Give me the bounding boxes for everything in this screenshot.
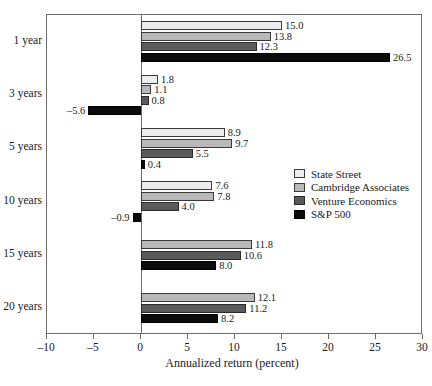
bar-cambridge-associates [141,32,271,41]
x-axis-tick [328,334,329,339]
x-axis-tick-label: 30 [416,341,428,353]
bar-value-label: 4.0 [182,202,195,211]
legend-swatch-icon [294,196,305,205]
bar-state-street [141,128,225,137]
bar-s-p-500 [141,160,145,169]
bar-value-label: –0.9 [111,213,129,222]
legend-label: Venture Economics [311,195,397,207]
bar-value-label: 15.0 [285,21,303,30]
bar-state-street [141,21,282,30]
x-axis-tick [422,334,423,339]
bar-venture-economics [141,251,241,260]
bar-chart: 1 year3 years5 years10 years15 years20 y… [0,0,432,386]
bar-state-street [141,181,212,190]
bar-value-label: –5.6 [67,106,85,115]
bar-s-p-500 [88,106,141,115]
y-axis-label-15-years: 15 years [0,247,42,259]
bar-group-15-years: 11.810.68.0 [47,240,421,270]
x-axis-tick [234,334,235,339]
x-axis-tick-label: 25 [369,341,381,353]
bar-value-label: 7.8 [217,192,230,201]
bar-venture-economics [141,42,257,51]
legend-item-state-street[interactable]: State Street [294,167,409,181]
bar-value-label: 1.1 [154,85,167,94]
bar-value-label: 0.8 [152,96,165,105]
y-axis-label-20-years: 20 years [0,300,42,312]
bar-s-p-500 [141,314,218,323]
legend-label: State Street [311,168,361,180]
bar-value-label: 12.3 [260,42,278,51]
x-axis-tick-label: 5 [184,341,190,353]
bar-cambridge-associates [141,240,252,249]
bar-value-label: 10.6 [244,251,262,260]
bar-group-20-years: 12.111.28.2 [47,293,421,323]
bar-value-label: 7.6 [215,181,228,190]
y-axis-label-1-year: 1 year [0,34,42,46]
bar-cambridge-associates [141,192,214,201]
y-axis-label-10-years: 10 years [0,194,42,206]
legend-item-venture-economics[interactable]: Venture Economics [294,194,409,208]
y-axis-label-5-years: 5 years [0,140,42,152]
bar-value-label: 11.2 [249,304,267,313]
bar-group-5-years: 8.99.75.50.4 [47,128,421,169]
legend-item-cambridge-associates[interactable]: Cambridge Associates [294,181,409,195]
x-axis-tick [281,334,282,339]
bar-value-label: 5.5 [196,149,209,158]
bar-value-label: 9.7 [235,139,248,148]
x-axis-tick [140,334,141,339]
x-axis-tick-label: 20 [322,341,334,353]
x-axis-tick [93,334,94,339]
bar-value-label: 26.5 [393,53,411,62]
bar-venture-economics [141,149,193,158]
x-axis: –10–5051015202530 [46,334,422,335]
legend-label: S&P 500 [311,208,351,220]
bar-s-p-500 [141,53,390,62]
legend-swatch-icon [294,210,305,219]
bar-venture-economics [141,96,149,105]
x-axis-tick [46,334,47,339]
legend-swatch-icon [294,169,305,178]
x-axis-title: Annualized return (percent) [0,356,432,371]
bar-cambridge-associates [141,85,151,94]
bar-s-p-500 [133,213,141,222]
x-axis-tick-label: –10 [37,341,54,353]
x-axis-tick-label: 10 [228,341,240,353]
bar-value-label: 1.8 [161,75,174,84]
x-axis-tick-label: 0 [137,341,143,353]
legend-label: Cambridge Associates [311,181,409,193]
bar-venture-economics [141,304,246,313]
bar-venture-economics [141,202,179,211]
bar-value-label: 11.8 [255,240,273,249]
y-axis-category-labels: 1 year3 years5 years10 years15 years20 y… [0,14,42,334]
x-axis-title-text: Annualized return (percent) [165,356,298,370]
x-axis-tick [375,334,376,339]
bar-cambridge-associates [141,139,232,148]
bar-group-1-year: 15.013.812.326.5 [47,21,421,62]
bar-value-label: 8.2 [221,314,234,323]
legend-item-s-p-500[interactable]: S&P 500 [294,208,409,222]
bar-value-label: 12.1 [258,293,276,302]
bar-s-p-500 [141,261,216,270]
bar-cambridge-associates [141,293,255,302]
bar-value-label: 8.0 [219,261,232,270]
bar-value-label: 0.4 [148,160,161,169]
legend-swatch-icon [294,183,305,192]
x-axis-tick [187,334,188,339]
bar-group-3-years: 1.81.10.8–5.6 [47,75,421,116]
x-axis-tick-label: 15 [275,341,287,353]
bar-value-label: 13.8 [274,32,292,41]
legend: State StreetCambridge AssociatesVenture … [294,167,409,221]
y-axis-label-3-years: 3 years [0,87,42,99]
zero-axis-line [141,15,142,333]
bar-state-street [141,75,158,84]
cropped-title-remnant [0,0,432,7]
x-axis-tick-label: –5 [87,341,99,353]
bar-value-label: 8.9 [228,128,241,137]
